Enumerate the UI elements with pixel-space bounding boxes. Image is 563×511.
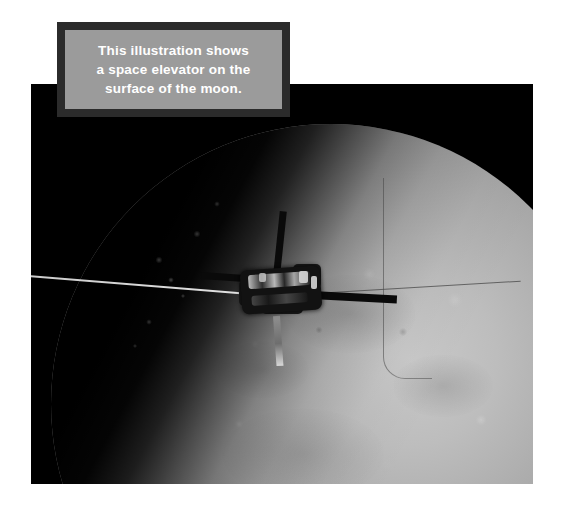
module-highlight-1 — [299, 271, 308, 283]
page-root: This illustration shows a space elevator… — [0, 0, 563, 511]
module-highlight-2 — [311, 276, 317, 289]
caption-line-2: a space elevator on the — [97, 60, 251, 79]
space-elevator — [31, 84, 533, 484]
caption-box: This illustration shows a space elevator… — [57, 22, 290, 117]
module-highlight-3 — [259, 273, 266, 282]
caption-line-3: surface of the moon. — [105, 79, 242, 98]
elevator-central-module — [237, 262, 325, 318]
module-body — [240, 265, 323, 314]
elevator-lower-strut — [273, 316, 283, 366]
caption-inner: This illustration shows a space elevator… — [65, 30, 282, 109]
moon-photo — [31, 84, 533, 484]
caption-line-1: This illustration shows — [98, 41, 249, 60]
